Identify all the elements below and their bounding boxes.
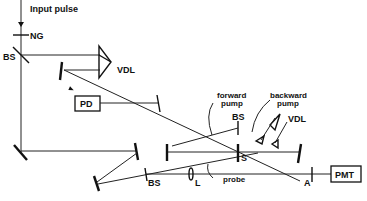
label-bs-top: BS	[3, 52, 16, 62]
label-a: A	[304, 178, 311, 188]
label-l: L	[195, 178, 201, 188]
forward-pointer	[209, 103, 213, 135]
optical-setup-diagram: Input pulse NG BS VDL PD forward pump ba…	[0, 0, 367, 201]
label-vdl-right: VDL	[288, 114, 307, 124]
label-bs-bottom: BS	[148, 178, 161, 188]
label-backward-pump: pump	[277, 99, 299, 108]
label-probe: probe	[223, 175, 246, 184]
label-bs-mid: BS	[232, 112, 245, 122]
vdl-prism-top	[99, 46, 111, 78]
vdl-prism-right	[270, 114, 280, 130]
arrow-icon	[68, 86, 74, 92]
label-s: S	[241, 153, 247, 163]
label-pmt: PMT	[335, 170, 355, 180]
arrow-icon	[18, 22, 24, 27]
mirror-3	[135, 143, 138, 160]
forward-pump-beam	[64, 70, 300, 181]
vdl-tip	[272, 140, 278, 148]
label-ng: NG	[30, 31, 44, 41]
vdl-tip	[256, 136, 264, 144]
probe-pointer	[208, 164, 213, 178]
bs-to-mirror	[172, 128, 238, 146]
backward-pointer	[252, 100, 270, 132]
label-vdl-top: VDL	[117, 65, 136, 75]
label-forward-pump: pump	[221, 99, 243, 108]
mirror-6	[298, 144, 301, 163]
label-input-pulse: Input pulse	[30, 4, 78, 14]
mirror-1	[60, 62, 62, 80]
beam-splitter-bottom	[145, 168, 147, 181]
label-pd: PD	[80, 99, 93, 109]
